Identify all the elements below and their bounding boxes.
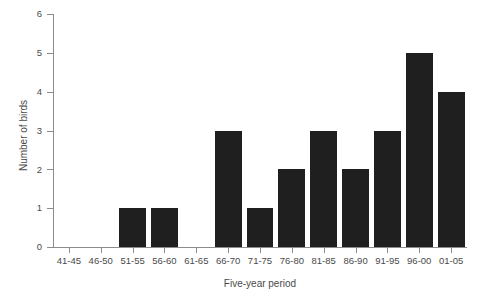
bar [438, 92, 465, 247]
x-axis-tick [101, 248, 102, 253]
x-axis-tick-label: 01-05 [429, 256, 473, 266]
x-axis-tick [324, 248, 325, 253]
y-axis-tick-label-text: 2 [20, 165, 42, 175]
bar [406, 53, 433, 247]
x-axis-tick [69, 248, 70, 253]
bar-chart-figure: Number of birds 0123456 41-4546-5051-555… [0, 0, 481, 301]
y-axis-tick-label-text: 4 [20, 87, 42, 97]
x-axis-tick [356, 248, 357, 253]
bar [374, 131, 401, 248]
y-tick-group: 0123456 [0, 0, 53, 301]
x-axis-tick [292, 248, 293, 253]
y-axis-tick-label: 5 [20, 47, 42, 59]
bar [215, 131, 242, 248]
y-axis-tick-label-text: 1 [20, 203, 42, 213]
bar [310, 131, 337, 248]
y-axis-tick-label: 3 [20, 125, 42, 137]
y-axis-tick-label: 1 [20, 202, 42, 214]
bar [119, 208, 146, 247]
y-axis-tick-label: 2 [20, 163, 42, 175]
x-axis-tick [164, 248, 165, 253]
y-axis-tick-label: 6 [20, 8, 42, 20]
bar [247, 208, 274, 247]
x-axis-tick [228, 248, 229, 253]
y-axis-tick-label: 4 [20, 86, 42, 98]
x-axis-tick [387, 248, 388, 253]
plot-area [53, 14, 467, 247]
x-axis-tick [451, 248, 452, 253]
y-axis-tick-label-text: 3 [20, 126, 42, 136]
x-axis-tick [419, 248, 420, 253]
bar [151, 208, 178, 247]
x-axis-tick [133, 248, 134, 253]
y-axis-tick-label: 0 [20, 241, 42, 253]
bar [278, 169, 305, 247]
y-axis-tick-label-text: 6 [20, 9, 42, 19]
x-axis-title: Five-year period [53, 278, 467, 289]
bar [342, 169, 369, 247]
x-axis-tick [196, 248, 197, 253]
x-axis-tick [260, 248, 261, 253]
y-axis-tick-label-text: 5 [20, 48, 42, 58]
y-axis-tick-label-text: 0 [20, 242, 42, 252]
